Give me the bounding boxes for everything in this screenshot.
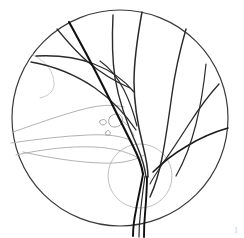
- vessel-nasal-superior-arcade: [150, 29, 186, 197]
- nasal-vessel-group: [150, 29, 228, 197]
- temporal-vessel-group: [31, 29, 137, 130]
- peripheral-arc-group: [33, 55, 54, 98]
- vessel-superotemporal-main: [69, 22, 143, 174]
- vessel-faint-macular-lower: [11, 135, 132, 143]
- vessel-faint-inferior-sweep: [16, 147, 143, 161]
- lesion-exudate-dot: [105, 131, 110, 136]
- fundus-vessel-tracing-svg: [0, 0, 244, 238]
- vessel-faint-macular-upper: [13, 105, 124, 132]
- corner-mark: 1: [234, 227, 238, 235]
- peripheral-arc: [33, 55, 54, 98]
- vessel-temporal-arch-branch: [57, 29, 130, 88]
- vessel-temporal-upper-branch: [36, 56, 134, 92]
- lesion-exudate-small: [100, 120, 107, 126]
- vessel-faint-inferior-long: [23, 152, 144, 163]
- fundus-figure: 1: [0, 0, 244, 238]
